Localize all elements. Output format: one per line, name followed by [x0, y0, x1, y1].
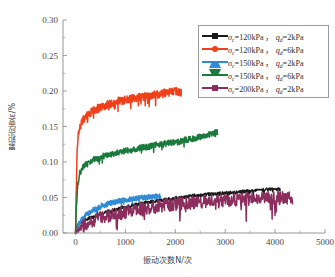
- legend-item-label: σc=200kPa，qd=2kPa: [228, 82, 304, 94]
- legend-item[interactable]: σc=150kPa，qd=2kPa: [202, 55, 324, 68]
- y-axis-title: 累积应变ε/%: [5, 78, 19, 174]
- legend-item[interactable]: σc=120kPa，qd=6kPa: [202, 42, 324, 55]
- x-axis-title: 振动次数N/次: [0, 249, 335, 267]
- x-tick-label: 1000: [116, 237, 135, 247]
- x-axis-title-text: 振动次数N/次: [143, 256, 192, 265]
- legend-marker-square-icon: [202, 30, 228, 42]
- legend-item[interactable]: σc=120kPa，qd=2kPa: [202, 29, 324, 42]
- legend-item-label: σc=150kPa，qd=6kPa: [228, 69, 304, 81]
- x-tick-label: 4000: [266, 237, 285, 247]
- legend-marker-triangle-up-icon: [202, 56, 228, 68]
- y-tick-label: 0.15: [42, 122, 58, 132]
- y-tick-label: 0.05: [42, 193, 58, 203]
- data-series-line: [75, 188, 280, 233]
- legend-item-label: σc=120kPa，qd=6kPa: [228, 43, 304, 55]
- legend-item[interactable]: σc=150kPa，qd=6kPa: [202, 68, 324, 81]
- chart-figure: 0.000.050.100.150.200.250.30010002000300…: [0, 0, 335, 277]
- legend-item-label: σc=150kPa，qd=2kPa: [228, 56, 304, 68]
- legend-marker-circle-icon: [202, 43, 228, 55]
- y-axis-title-text: 累积应变ε/%: [7, 103, 18, 150]
- x-tick-label: 0: [73, 237, 78, 247]
- y-tick-label: 0.00: [42, 228, 58, 238]
- data-series-group: [75, 87, 292, 233]
- legend-marker-triangle-down-icon: [202, 69, 228, 81]
- x-tick-label: 5000: [316, 237, 335, 247]
- y-tick-label: 0.30: [42, 15, 58, 25]
- y-tick-label: 0.10: [42, 157, 58, 167]
- legend-item[interactable]: σc=200kPa，qd=2kPa: [202, 81, 324, 94]
- legend-item-label: σc=120kPa，qd=2kPa: [228, 30, 304, 42]
- chart-legend: σc=120kPa，qd=2kPaσc=120kPa，qd=6kPaσc=150…: [198, 25, 329, 98]
- legend-marker-diamond-icon: [202, 82, 228, 94]
- x-tick-label: 3000: [216, 237, 235, 247]
- y-tick-label: 0.25: [42, 51, 58, 61]
- x-tick-label: 2000: [166, 237, 185, 247]
- y-tick-label: 0.20: [42, 86, 58, 96]
